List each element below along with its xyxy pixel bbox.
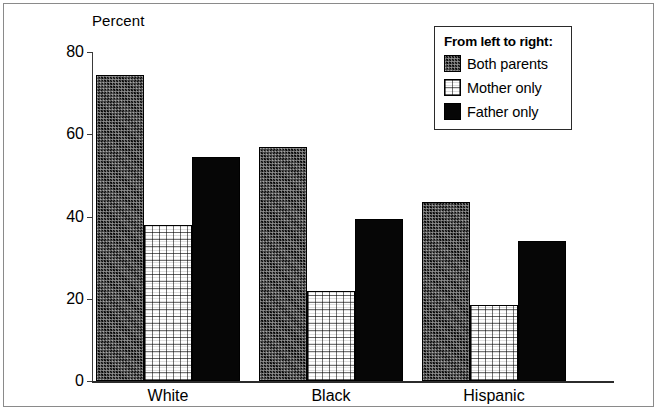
legend-label-father-only: Father only: [467, 104, 538, 120]
legend-label-mother-only: Mother only: [467, 80, 542, 96]
legend-swatch-father-only-icon: [444, 103, 461, 120]
y-axis-tickmark-0: [87, 381, 92, 382]
bar-white-mother-only: [144, 225, 192, 381]
bar-hispanic-mother-only: [470, 305, 518, 381]
legend-item-both-parents: Both parents: [444, 55, 563, 72]
legend-label-both-parents: Both parents: [467, 56, 548, 72]
bar-hispanic-both-parents: [422, 202, 470, 381]
y-axis-tick-60: 60: [44, 126, 84, 142]
legend-title: From left to right:: [444, 34, 563, 49]
bar-black-both-parents: [259, 147, 307, 381]
y-axis-title: Percent: [92, 12, 144, 29]
legend: From left to right: Both parents Mother …: [434, 26, 572, 130]
y-axis-tick-40: 40: [44, 209, 84, 225]
x-axis-label-white: White: [108, 388, 228, 404]
y-axis-tick-80: 80: [44, 44, 84, 60]
x-axis-label-hispanic: Hispanic: [434, 388, 554, 404]
y-axis-tick-0: 0: [44, 373, 84, 389]
bar-black-father-only: [355, 219, 403, 381]
bar-white-both-parents: [96, 75, 144, 381]
legend-swatch-both-parents-icon: [444, 55, 461, 72]
bar-white-father-only: [192, 157, 240, 381]
legend-swatch-mother-only-icon: [444, 79, 461, 96]
figure-frame: Percent 020406080 WhiteBlackHispanic Fro…: [3, 3, 654, 407]
y-axis-tick-20: 20: [44, 291, 84, 307]
bar-black-mother-only: [307, 291, 355, 382]
legend-item-father-only: Father only: [444, 103, 563, 120]
x-axis-label-black: Black: [271, 388, 391, 404]
bar-hispanic-father-only: [518, 241, 566, 381]
chart-screenshot: Percent 020406080 WhiteBlackHispanic Fro…: [0, 0, 660, 416]
x-axis-line: [92, 381, 614, 383]
legend-item-mother-only: Mother only: [444, 79, 563, 96]
